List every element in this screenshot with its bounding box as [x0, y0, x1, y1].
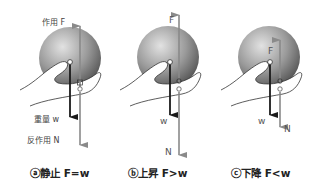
panel-a: 作用 F 重量 w 反作用 N ⓐ静止 F=w [20, 17, 101, 179]
label-N: 反作用 N [27, 135, 60, 145]
center-of-mass-point [68, 60, 73, 65]
label-F: F [169, 15, 174, 25]
center-of-mass-point [168, 60, 173, 65]
caption-a: ⓐ静止 F=w [30, 167, 90, 179]
label-w: 重量 w [34, 114, 60, 124]
panel-b: F w N ⓑ上昇 F>w [120, 15, 201, 179]
force-diagram: 作用 F 重量 w 反作用 N ⓐ静止 F=w F w N ⓑ上昇 F>w F [0, 0, 315, 191]
hand-point [177, 87, 181, 91]
label-F: 作用 F [42, 17, 66, 27]
panel-c: F w N ⓒ下降 F<w [221, 26, 302, 179]
label-N: N [284, 124, 291, 134]
label-N: N [165, 147, 172, 157]
hand-point [278, 87, 282, 91]
label-F: F [268, 46, 273, 56]
caption-b: ⓑ上昇 F>w [128, 167, 188, 179]
hand-point [78, 87, 82, 91]
label-w: w [160, 116, 167, 126]
center-of-mass-point [268, 60, 273, 65]
caption-c: ⓒ下降 F<w [231, 167, 291, 179]
label-w: w [258, 116, 265, 126]
